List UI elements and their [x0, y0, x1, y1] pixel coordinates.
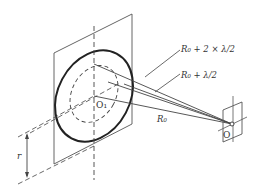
ray-r2b — [124, 84, 232, 124]
label-r1: R₀ + λ/2 — [180, 70, 217, 80]
label-r2: R₀ + 2 × λ/2 — [180, 44, 235, 54]
leader-r2 — [145, 50, 180, 77]
label-r0: R₀ — [156, 114, 167, 124]
label-o1: O₁ — [96, 100, 107, 110]
label-r: r — [17, 151, 22, 161]
label-o: O — [223, 130, 230, 140]
r-bottom-dash — [18, 146, 94, 184]
leader-r1 — [155, 74, 180, 92]
fresnel-zone-diagram: r R₀ + 2 × λ/2 R₀ + λ/2 R₀ O₁ O — [0, 0, 262, 187]
r-arrow-bottom — [25, 172, 29, 178]
aperture-point — [230, 122, 234, 126]
